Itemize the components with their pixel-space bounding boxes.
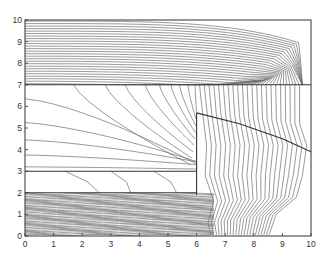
x-tick-label: 10 <box>306 239 316 249</box>
contour-right <box>253 85 279 235</box>
contour-bottom <box>25 232 214 233</box>
contour-right <box>242 85 260 235</box>
y-tick-label: 5 <box>17 123 22 133</box>
y-tick-label: 6 <box>17 101 22 111</box>
contour-right <box>264 85 298 235</box>
contour-bottom <box>25 200 214 201</box>
contour-right <box>230 85 241 235</box>
contour-middle-left <box>25 167 197 169</box>
x-tick-label: 2 <box>80 239 85 249</box>
y-tick-label: 10 <box>13 15 23 25</box>
x-tick-label: 7 <box>223 239 228 249</box>
x-tick-label: 3 <box>108 239 113 249</box>
x-tick-label: 4 <box>137 239 142 249</box>
y-tick-label: 4 <box>17 145 22 155</box>
contour-middle-left <box>25 155 197 165</box>
y-tick-label: 0 <box>17 231 22 241</box>
y-tick-label: 9 <box>17 37 22 47</box>
contour-bottom <box>25 208 214 209</box>
contour-middle-top <box>125 85 193 152</box>
contour-bottom <box>25 201 214 202</box>
contour-bottom <box>25 231 214 232</box>
contour-bottom <box>25 214 214 215</box>
contour-right <box>228 85 238 235</box>
y-tick-label: 8 <box>17 58 22 68</box>
contour-lines <box>25 21 307 235</box>
x-tick-label: 0 <box>23 239 28 249</box>
contour-right <box>269 85 307 235</box>
contour-bottom <box>25 224 214 225</box>
contour-chart: 012345678910 012345678910 <box>0 0 326 260</box>
contour-shelf <box>111 171 131 193</box>
contour-middle-top <box>195 85 196 113</box>
y-tick-label: 7 <box>17 80 22 90</box>
x-tick-label: 5 <box>166 239 171 249</box>
contour-bottom <box>25 207 214 208</box>
y-tick-label: 2 <box>17 188 22 198</box>
contour-middle-top <box>145 85 194 146</box>
contour-bottom <box>25 217 214 218</box>
contour-bottom <box>25 223 214 224</box>
contour-bottom <box>25 209 214 210</box>
y-tick-label: 1 <box>17 209 22 219</box>
contour-shelf <box>65 171 99 193</box>
contour-shelf <box>154 171 177 193</box>
contour-bottom <box>25 193 214 194</box>
region-boundaries <box>25 85 311 195</box>
x-tick-label: 8 <box>251 239 256 249</box>
y-tick-label: 3 <box>17 166 22 176</box>
x-tick-label: 6 <box>194 239 199 249</box>
x-tick-label: 9 <box>280 239 285 249</box>
x-tick-label: 1 <box>51 239 56 249</box>
contour-bottom <box>25 216 214 217</box>
